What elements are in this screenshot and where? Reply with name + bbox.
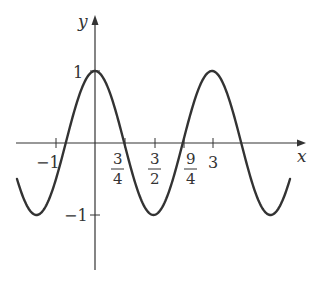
svg-text:4: 4 [186, 170, 196, 188]
svg-text:9: 9 [186, 150, 196, 168]
y-axis-arrow-icon [92, 15, 99, 25]
x-tick-label-neg1: −1 [36, 153, 60, 172]
svg-text:4: 4 [113, 170, 123, 188]
x-tick-label-9-4: 9 4 [184, 150, 197, 188]
svg-text:3: 3 [150, 150, 160, 168]
y-tick-label-neg1: −1 [64, 206, 88, 225]
x-tick-label-3-2: 3 2 [148, 150, 161, 188]
y-axis-label: y [77, 11, 88, 31]
y-tick-label-1: 1 [73, 63, 83, 82]
x-axis-label: x [297, 146, 307, 166]
function-plot: y x 1 −1 −1 3 3 4 3 2 9 4 [0, 0, 312, 295]
x-tick-label-3: 3 [208, 153, 218, 172]
svg-text:3: 3 [113, 150, 123, 168]
x-tick-label-3-4: 3 4 [111, 150, 124, 188]
svg-text:2: 2 [150, 170, 160, 188]
